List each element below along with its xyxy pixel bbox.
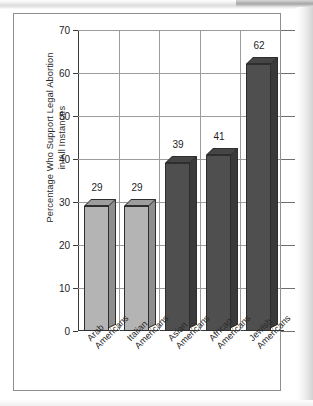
bar-side-face	[271, 58, 278, 328]
y-axis-tick-label: 20	[59, 240, 70, 251]
bar: 41	[206, 155, 231, 331]
y-axis-tick-label: 0	[64, 326, 70, 337]
bar-front-face	[206, 155, 231, 331]
bar-value-label: 39	[172, 139, 183, 150]
bar-front-face	[165, 163, 190, 331]
y-axis-tick-label: 50	[59, 111, 70, 122]
y-axis-tick-right	[281, 331, 295, 332]
plot-area: 010203040506070 2929394162 Arab American…	[78, 30, 281, 331]
bar-value-label: 41	[213, 131, 224, 142]
bar-side-face	[190, 157, 197, 328]
bar-value-label: 29	[91, 182, 102, 193]
bar-front-face	[246, 64, 271, 331]
y-axis-tick	[73, 331, 78, 332]
gridline-vertical	[119, 30, 120, 331]
y-axis-tick-label: 40	[59, 154, 70, 165]
bar-value-label: 29	[131, 182, 142, 193]
bar-front-face	[84, 206, 109, 331]
y-axis-tick-right	[281, 245, 295, 246]
y-axis-tick-right	[281, 73, 295, 74]
y-axis-tick	[73, 159, 78, 160]
bar-front-face	[124, 206, 149, 331]
figure-frame: Percentage Who Support Legal Abortion in…	[13, 13, 281, 391]
y-axis-line	[78, 30, 79, 331]
bar-value-label: 62	[253, 40, 264, 51]
y-axis-tick-right	[281, 159, 295, 160]
bar: 62	[246, 64, 271, 331]
y-axis-tick-label: 70	[59, 25, 70, 36]
bar: 29	[124, 206, 149, 331]
gridline-vertical	[240, 30, 241, 331]
y-axis-tick-right	[281, 202, 295, 203]
bar: 29	[84, 206, 109, 331]
y-axis-tick	[73, 288, 78, 289]
y-axis-tick	[73, 202, 78, 203]
y-axis-title: Percentage Who Support Legal Abortion in…	[45, 18, 68, 258]
y-axis-tick-label: 60	[59, 68, 70, 79]
scan-edge-bottom	[0, 400, 313, 406]
y-axis-tick-label: 10	[59, 283, 70, 294]
y-axis-tick	[73, 30, 78, 31]
y-axis-tick	[73, 73, 78, 74]
y-axis-tick	[73, 245, 78, 246]
gridline-vertical	[200, 30, 201, 331]
gridline-vertical	[159, 30, 160, 331]
bar-side-face	[231, 148, 238, 328]
gridline-horizontal	[78, 30, 281, 31]
y-axis-tick-label: 30	[59, 197, 70, 208]
y-axis-tick	[73, 116, 78, 117]
y-axis-tick-right	[281, 288, 295, 289]
y-axis-tick-right	[281, 30, 295, 31]
scan-edge-top-dark	[236, 0, 313, 7]
bar: 39	[165, 163, 190, 331]
y-axis-tick-right	[281, 116, 295, 117]
scan-edge-right	[297, 7, 313, 406]
